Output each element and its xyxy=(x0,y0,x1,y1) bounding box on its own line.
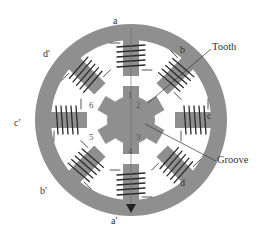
tooth-callout: Tooth xyxy=(212,41,237,52)
tooth-number-6: 6 xyxy=(89,100,94,110)
label-d: d xyxy=(180,177,185,188)
groove-callout: Groove xyxy=(217,154,249,165)
label-b-prime: b′ xyxy=(40,185,47,196)
label-c-prime: c′ xyxy=(14,117,21,128)
label-a-prime: a′ xyxy=(111,215,118,226)
label-b: b xyxy=(180,44,185,55)
label-d-prime: d′ xyxy=(43,48,50,59)
tooth-number-3: 3 xyxy=(136,132,141,142)
tooth-number-1: 1 xyxy=(128,90,133,100)
tooth-number-5: 5 xyxy=(89,132,94,142)
tooth-number-4: 4 xyxy=(128,146,133,156)
stepper-motor-diagram: 1 2 3 4 5 6 a b c d a′ b′ c′ d′ Tooth Gr… xyxy=(0,0,264,240)
tooth-number-2: 2 xyxy=(136,100,141,110)
label-a: a xyxy=(113,15,118,26)
label-c: c xyxy=(207,110,212,121)
